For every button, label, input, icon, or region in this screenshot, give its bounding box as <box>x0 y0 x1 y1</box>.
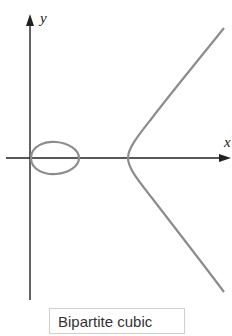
caption-text: Bipartite cubic <box>58 313 152 330</box>
y-axis-label: y <box>40 10 47 27</box>
y-axis-arrow-icon <box>26 14 34 26</box>
unbounded-branch <box>128 28 224 292</box>
bipartite-cubic-diagram <box>0 0 232 336</box>
figure-caption: Bipartite cubic <box>49 308 185 334</box>
x-axis-label: x <box>224 134 231 151</box>
x-axis-arrow-icon <box>219 154 231 162</box>
